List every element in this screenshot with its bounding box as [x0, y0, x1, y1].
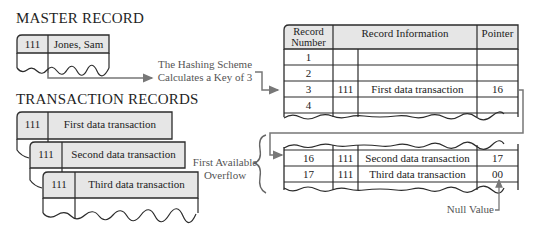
master-record-name: Jones, Sam: [48, 38, 109, 50]
overflow-label-line1: First Available: [190, 156, 260, 169]
transaction-records-heading: TRANSACTION RECORDS: [16, 91, 199, 108]
row-number: 2: [284, 67, 333, 79]
row-number: 17: [284, 168, 333, 180]
master-record-torn-edge: [17, 65, 109, 76]
row-pointer: 00: [477, 168, 518, 180]
row-info: Second data transaction: [358, 152, 477, 164]
row-number: 4: [284, 99, 333, 111]
row-info: First data transaction: [358, 83, 477, 95]
row-number: 1: [284, 51, 333, 63]
row-info: Third data transaction: [358, 168, 477, 180]
header-record-number-line2: Number: [284, 37, 333, 48]
transaction-1-key: 111: [17, 118, 48, 130]
first-available-overflow-label: First Available Overflow: [190, 156, 260, 182]
master-record-key: 111: [17, 38, 48, 50]
hashing-label-line2: Calculates a Key of 3: [150, 71, 260, 84]
overflow-table-bottom-torn-edge: [284, 186, 504, 193]
row-number: 16: [284, 152, 333, 164]
overflow-label-line2: Overflow: [190, 169, 260, 182]
null-value-label: Null Value: [432, 203, 494, 216]
row-key: 111: [333, 152, 358, 164]
row-key: 111: [333, 83, 358, 95]
row-key: 111: [333, 168, 358, 180]
row-pointer: 17: [477, 152, 518, 164]
master-record-heading: MASTER RECORD: [16, 10, 144, 27]
transaction-record-3: [43, 168, 198, 223]
row-number: 3: [284, 83, 333, 95]
hashing-label-line1: The Hashing Scheme: [150, 58, 260, 71]
transaction-2-key: 111: [30, 148, 62, 160]
header-pointer: Pointer: [477, 27, 518, 39]
transaction-1-text: First data transaction: [48, 118, 172, 130]
transaction-3-text: Third data transaction: [75, 178, 198, 190]
overflow-table-top-torn-edge: [284, 141, 504, 150]
transaction-2-text: Second data transaction: [62, 148, 185, 160]
hashing-scheme-label: The Hashing Scheme Calculates a Key of 3: [150, 58, 260, 84]
overflow-table: [284, 141, 518, 193]
header-record-number: Record Number: [284, 26, 333, 48]
null-value-arrow: [495, 180, 499, 210]
transaction-3-key: 111: [43, 178, 75, 190]
header-record-number-line1: Record: [284, 26, 333, 37]
row-pointer: 16: [477, 83, 518, 95]
header-record-information: Record Information: [333, 27, 477, 39]
